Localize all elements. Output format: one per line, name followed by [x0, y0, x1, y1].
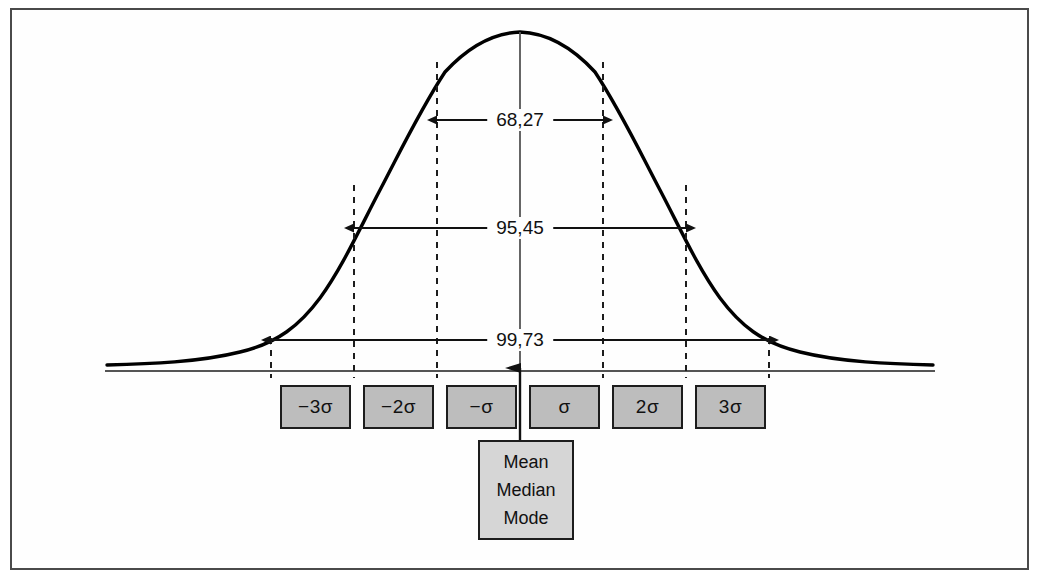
center-tendency-box: Mean Median Mode	[478, 440, 574, 540]
sigma-box-minus-3: −3σ	[280, 385, 351, 429]
dimension-label-68: 68,27	[487, 109, 553, 131]
dimension-label-95: 95,45	[487, 217, 553, 239]
sigma-box-plus-3: 3σ	[695, 385, 766, 429]
normal-distribution-figure: 68,27 95,45 99,73 −3σ −2σ −σ σ 2σ 3σ Mea…	[0, 0, 1041, 583]
median-label: Median	[496, 480, 555, 501]
mode-label: Mode	[503, 508, 548, 529]
sigma-box-minus-2: −2σ	[363, 385, 434, 429]
sigma-box-minus-1: −σ	[446, 385, 517, 429]
sigma-box-plus-1: σ	[529, 385, 600, 429]
mean-label: Mean	[503, 452, 548, 473]
dimension-label-99: 99,73	[487, 329, 553, 351]
sigma-box-plus-2: 2σ	[612, 385, 683, 429]
